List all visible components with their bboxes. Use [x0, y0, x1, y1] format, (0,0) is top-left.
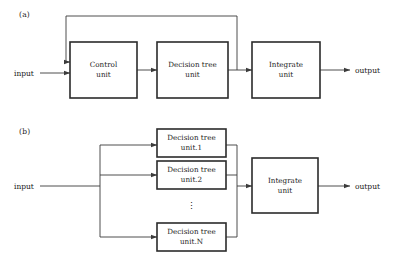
output-label-a: output: [355, 66, 380, 75]
label-control-unit-line2: unit: [96, 70, 110, 79]
label-decision-tree-unit-1-line2: unit.1: [181, 143, 202, 152]
label-integrate-unit-a-line1: Integrate: [269, 60, 303, 69]
label-decision-tree-unit-line2: unit: [185, 70, 199, 79]
input-bus-b: [40, 145, 157, 237]
diagram-canvas: [0, 0, 395, 261]
label-decision-tree-unit-n-line2: unit.N: [180, 237, 203, 246]
label-decision-tree-unit-2: Decision tree unit.2: [167, 165, 215, 185]
label-decision-tree-unit-n: Decision tree unit.N: [167, 227, 215, 247]
label-decision-tree-unit-2-line2: unit.2: [181, 175, 202, 184]
label-decision-tree-unit: Decision tree unit: [168, 60, 216, 80]
block-diagram-figure: (a) input output Control unit Decision t…: [0, 0, 395, 261]
output-bus-b: [226, 145, 252, 237]
input-label-b: input: [14, 182, 34, 191]
label-decision-tree-unit-1-line1: Decision tree: [167, 133, 215, 142]
output-label-b: output: [355, 182, 380, 191]
label-integrate-unit-a-line2: unit: [279, 70, 293, 79]
label-decision-tree-unit-n-line1: Decision tree: [167, 227, 215, 236]
label-control-unit: Control unit: [90, 60, 117, 80]
label-integrate-unit-b: Integrate unit: [268, 176, 302, 196]
label-decision-tree-unit-line1: Decision tree: [168, 60, 216, 69]
label-control-unit-line1: Control: [90, 60, 117, 69]
panel-label-b: (b): [19, 127, 30, 136]
label-decision-tree-unit-1: Decision tree unit.1: [167, 133, 215, 153]
input-label-a: input: [14, 69, 34, 78]
panel-label-a: (a): [19, 10, 30, 19]
label-integrate-unit-b-line2: unit: [278, 186, 292, 195]
label-integrate-unit-b-line1: Integrate: [268, 176, 302, 185]
label-integrate-unit-a: Integrate unit: [269, 60, 303, 80]
vertical-ellipsis-icon: ⋮: [187, 202, 196, 211]
panel-a-group: [40, 16, 350, 98]
label-decision-tree-unit-2-line1: Decision tree: [167, 165, 215, 174]
